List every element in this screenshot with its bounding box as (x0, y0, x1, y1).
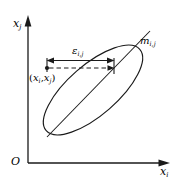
residual-arrowhead-right (107, 58, 115, 64)
residual-label: εi,j (72, 46, 84, 56)
point-x-subscript: i (39, 77, 41, 84)
slope-label: mi,j (140, 36, 156, 46)
origin-label: O (11, 156, 20, 167)
point-coordinate-label: (xi,xj) (29, 73, 55, 83)
x-axis-label: xi (160, 166, 169, 177)
y-axis-arrowhead (25, 15, 32, 27)
y-axis-label: xj (13, 18, 21, 29)
x-axis-label-subscript: i (166, 171, 168, 179)
residual-label-subscript: i,j (77, 50, 83, 57)
point-x-base: x (33, 72, 39, 83)
point-paren-close: ) (52, 72, 56, 83)
slope-label-subscript: i,j (149, 40, 155, 47)
residual-arrowhead-left (47, 58, 55, 64)
observed-point-marker (45, 66, 49, 70)
figure-container: xj xi O mi,j εi,j (xi,xj) (0, 0, 180, 185)
figure-canvas (0, 0, 180, 185)
regression-line (47, 31, 150, 137)
point-y-subscript: j (49, 77, 51, 84)
